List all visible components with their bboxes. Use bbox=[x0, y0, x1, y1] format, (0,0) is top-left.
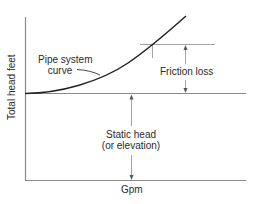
curve-label: Pipe system curve bbox=[38, 54, 82, 76]
pipe-system-diagram bbox=[0, 0, 257, 204]
curve-label-line1: Pipe system bbox=[38, 54, 82, 65]
x-axis-label: Gpm bbox=[121, 184, 143, 195]
static-arrowhead-up bbox=[130, 95, 134, 100]
curve-label-line2: curve bbox=[38, 65, 82, 76]
y-axis-label: Total head feet bbox=[6, 54, 17, 120]
friction-arrowhead-down bbox=[184, 88, 188, 93]
static-head-label-line1: Static head bbox=[101, 129, 161, 140]
static-arrowhead-down bbox=[130, 175, 134, 180]
friction-loss-label: Friction loss bbox=[160, 66, 213, 77]
static-head-label-line2: (or elevation) bbox=[101, 140, 161, 151]
friction-arrowhead-up bbox=[184, 45, 188, 50]
static-head-label: Static head (or elevation) bbox=[101, 129, 161, 151]
